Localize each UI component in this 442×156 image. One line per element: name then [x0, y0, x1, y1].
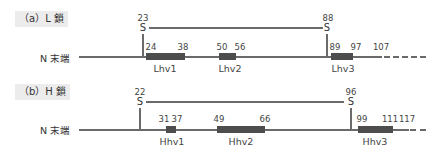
disulfide-left-s: S — [140, 22, 146, 33]
region-box-lhv3 — [331, 53, 353, 60]
region-end-lhv2: 56 — [235, 42, 246, 52]
panel-label-h-chain: （b）H 鎖 — [15, 84, 70, 100]
region-label-lhv1: Lhv1 — [154, 63, 177, 74]
chain-continuation-dashed — [410, 129, 426, 131]
region-box-hhv2 — [217, 126, 265, 133]
region-box-lhv1 — [146, 53, 185, 60]
region-end-hhv2: 66 — [260, 114, 271, 124]
panel-l-chain: （a）L 鎖 N 末端 23 S 88 S 24 38 Lhv1 50 56 L… — [0, 0, 442, 78]
disulfide-left-stem — [142, 34, 144, 57]
disulfide-right-stem — [326, 34, 328, 57]
disulfide-bridge — [146, 101, 344, 103]
region-label-lhv2: Lhv2 — [219, 63, 242, 74]
disulfide-right-s: S — [324, 22, 330, 33]
region-start-hhv2: 49 — [214, 114, 225, 124]
region-label-hhv3: Hhv3 — [363, 136, 388, 147]
region-box-lhv2 — [219, 53, 236, 60]
n-terminus-label: N 末端 — [40, 51, 70, 65]
disulfide-right-stem — [350, 108, 352, 130]
disulfide-left-stem — [139, 108, 141, 130]
region-end-hhv3: 111 — [382, 114, 398, 124]
region-box-hhv3 — [358, 126, 393, 133]
region-start-lhv2: 50 — [217, 42, 228, 52]
region-start-lhv3: 89 — [330, 42, 341, 52]
disulfide-left-s: S — [137, 96, 143, 107]
disulfide-bridge — [149, 27, 323, 29]
region-end-lhv3: 97 — [351, 42, 362, 52]
chain-end-residue: 117 — [399, 114, 415, 124]
chain-end-residue: 107 — [373, 42, 389, 52]
disulfide-right-s: S — [348, 96, 354, 107]
region-label-hhv2: Hhv2 — [229, 136, 254, 147]
chain-continuation-dashed — [384, 56, 426, 58]
panel-h-chain: （b）H 鎖 N 末端 22 S 96 S 31 37 Hhv1 49 66 H… — [0, 78, 442, 156]
region-box-hhv1 — [166, 126, 176, 133]
region-start-hhv1: 31 — [159, 114, 170, 124]
region-start-lhv1: 24 — [146, 42, 157, 52]
panel-label-l-chain: （a）L 鎖 — [15, 11, 68, 27]
region-label-lhv3: Lhv3 — [332, 63, 355, 74]
region-start-hhv3: 99 — [357, 114, 368, 124]
region-end-lhv1: 38 — [178, 42, 189, 52]
n-terminus-label: N 末端 — [40, 123, 70, 137]
region-label-hhv1: Hhv1 — [160, 136, 185, 147]
region-end-hhv1: 37 — [172, 114, 183, 124]
